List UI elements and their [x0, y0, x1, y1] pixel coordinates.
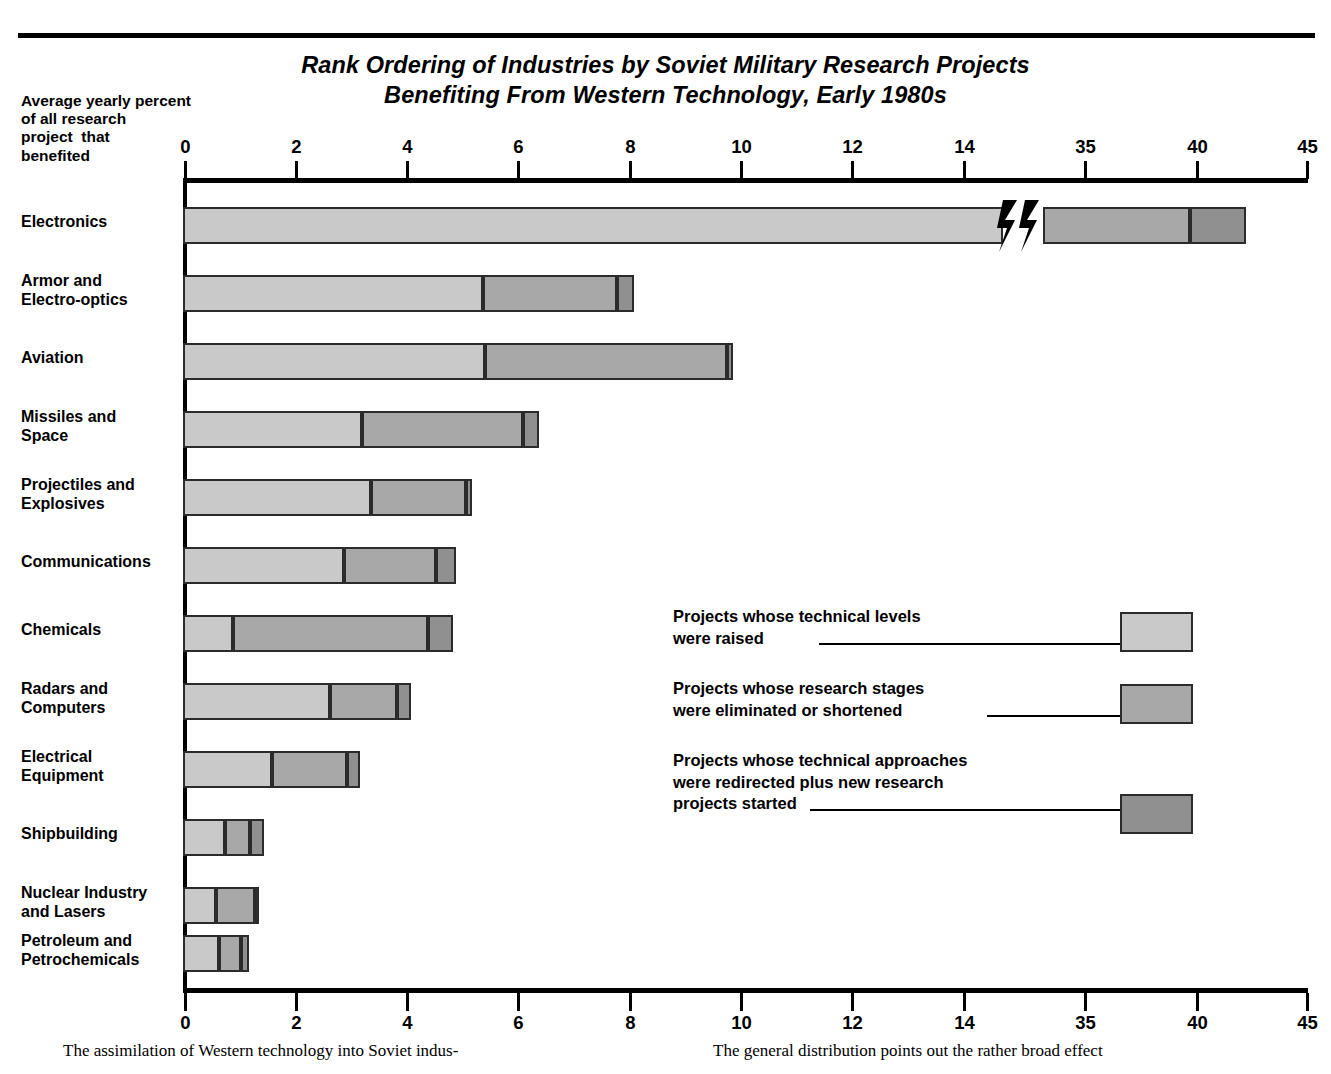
bar-row	[0, 479, 1331, 516]
bar-segment-1	[362, 411, 523, 448]
bar-segment-2	[466, 479, 472, 516]
legend-swatch-1	[1120, 684, 1193, 724]
legend-leader-line	[987, 715, 1135, 717]
x-axis-tick-mark-bot-40	[1196, 993, 1199, 1011]
x-axis-tick-mark-top-2	[295, 161, 298, 179]
x-axis-tick-mark-top-45	[1306, 161, 1309, 179]
x-axis-tick-mark-top-14	[963, 161, 966, 179]
bar-segment-0	[183, 275, 483, 312]
x-axis-tick-label-top-2: 2	[277, 136, 317, 158]
footer-text-right: The general distribution points out the …	[713, 1040, 1273, 1062]
bar-segment-2	[255, 887, 259, 924]
x-axis-tick-mark-bot-45	[1306, 993, 1309, 1011]
legend-label-line: Projects whose research stages	[673, 678, 1073, 700]
bar-segment-0	[183, 479, 371, 516]
x-axis-tick-mark-top-40	[1196, 161, 1199, 179]
bar-segment-0	[183, 411, 362, 448]
x-axis-tick-label-bot-40: 40	[1178, 1012, 1218, 1034]
bar-segment-1	[219, 935, 241, 972]
x-axis-tick-mark-top-35	[1084, 161, 1087, 179]
bar-row	[0, 547, 1331, 584]
bar-segment-1	[344, 547, 436, 584]
bar-segment-2	[1190, 207, 1246, 244]
bar-segment-1	[330, 683, 397, 720]
bar-segment-2	[397, 683, 411, 720]
legend-label-line: Projects whose technical approaches	[673, 750, 1073, 772]
bar-segment-2	[250, 819, 264, 856]
x-axis-tick-label-top-35: 35	[1066, 136, 1106, 158]
x-axis-tick-mark-bot-14	[963, 993, 966, 1011]
bar-segment-2	[347, 751, 360, 788]
x-axis-tick-label-top-4: 4	[388, 136, 428, 158]
bar-segment-0	[183, 887, 216, 924]
bar-segment-1	[233, 615, 428, 652]
x-axis-tick-mark-bot-6	[517, 993, 520, 1011]
x-axis-tick-label-top-40: 40	[1178, 136, 1218, 158]
bar-segment-0	[183, 819, 225, 856]
legend-label-line: were raised	[673, 628, 1073, 650]
bar-segment-1	[225, 819, 250, 856]
legend-label-line: were redirected plus new research	[673, 772, 1073, 794]
x-axis-tick-label-top-8: 8	[611, 136, 651, 158]
x-axis-tick-label-top-0: 0	[166, 136, 206, 158]
axis-break-zigzag-icon	[995, 200, 1051, 252]
legend-label-line: Projects whose technical levels	[673, 606, 1073, 628]
bar-segment-2	[727, 343, 733, 380]
bar-row	[0, 275, 1331, 312]
bar-segment-2	[241, 935, 249, 972]
x-axis-tick-label-bot-8: 8	[611, 1012, 651, 1034]
legend-swatch-2	[1120, 794, 1193, 834]
legend-leader-line	[810, 809, 1140, 811]
legend-item-0[interactable]: Projects whose technical levelswere rais…	[673, 606, 1193, 649]
legend-item-label: Projects whose technical approacheswere …	[673, 750, 1073, 815]
x-axis-tick-label-bot-4: 4	[388, 1012, 428, 1034]
bar-row	[0, 343, 1331, 380]
bar-row	[0, 887, 1331, 924]
x-axis-tick-label-bot-45: 45	[1288, 1012, 1328, 1034]
chart-plot-area: 0022446688101012121414353540404545 Elect…	[0, 0, 1331, 1074]
x-axis-tick-mark-bot-0	[184, 993, 187, 1011]
x-axis-tick-label-top-14: 14	[945, 136, 985, 158]
legend-leader-line	[819, 643, 1137, 645]
x-axis-tick-label-bot-14: 14	[945, 1012, 985, 1034]
x-axis-tick-mark-bot-10	[740, 993, 743, 1011]
legend-label-line: were eliminated or shortened	[673, 700, 1073, 722]
x-axis-tick-label-bot-12: 12	[833, 1012, 873, 1034]
x-axis-tick-label-top-6: 6	[499, 136, 539, 158]
bar-segment-0	[183, 207, 1003, 244]
x-axis-tick-label-top-10: 10	[722, 136, 762, 158]
bar-segment-2	[617, 275, 634, 312]
bar-segment-1	[483, 275, 617, 312]
x-axis-tick-mark-top-8	[629, 161, 632, 179]
bar-segment-1	[371, 479, 466, 516]
bar-segment-2	[428, 615, 453, 652]
x-axis-tick-mark-top-6	[517, 161, 520, 179]
legend-item-1[interactable]: Projects whose research stageswere elimi…	[673, 678, 1193, 721]
x-axis-tick-mark-top-0	[184, 161, 187, 179]
legend: Projects whose technical levelswere rais…	[673, 606, 1193, 844]
x-axis-tick-mark-bot-12	[851, 993, 854, 1011]
bar-segment-2	[523, 411, 539, 448]
bar-segment-0	[183, 683, 330, 720]
x-axis-tick-label-bot-10: 10	[722, 1012, 762, 1034]
x-axis-tick-label-top-45: 45	[1288, 136, 1328, 158]
legend-swatch-0	[1120, 612, 1193, 652]
x-axis-tick-mark-bot-4	[406, 993, 409, 1011]
bar-row	[0, 207, 1331, 244]
bar-row	[0, 935, 1331, 972]
x-axis-tick-label-bot-2: 2	[277, 1012, 317, 1034]
x-axis-tick-mark-bot-8	[629, 993, 632, 1011]
bar-segment-0	[183, 547, 344, 584]
x-axis-tick-label-top-12: 12	[833, 136, 873, 158]
x-axis-tick-label-bot-6: 6	[499, 1012, 539, 1034]
bar-segment-0	[183, 935, 219, 972]
legend-item-2[interactable]: Projects whose technical approacheswere …	[673, 750, 1193, 815]
bar-segment-1	[272, 751, 347, 788]
x-axis-tick-label-bot-35: 35	[1066, 1012, 1106, 1034]
x-axis-bottom-line	[183, 988, 1308, 993]
bar-segment-2	[436, 547, 456, 584]
x-axis-top-line	[183, 178, 1308, 183]
bar-segment-0	[183, 615, 233, 652]
x-axis-tick-mark-bot-2	[295, 993, 298, 1011]
x-axis-tick-mark-top-10	[740, 161, 743, 179]
